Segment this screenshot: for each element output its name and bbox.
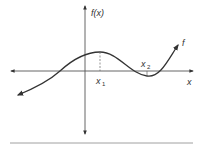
y-axis-label: f(x)	[91, 8, 104, 18]
x-axis-label: x	[186, 77, 192, 87]
curve-label: f	[182, 38, 186, 48]
x1-subscript: 1	[102, 81, 106, 87]
x1-label: x	[95, 76, 101, 86]
x2-label: x	[140, 59, 146, 69]
x2-subscript: 2	[147, 64, 151, 70]
function-curve	[18, 45, 178, 95]
function-graph: f(x) x f x 1 x 2	[0, 0, 200, 149]
